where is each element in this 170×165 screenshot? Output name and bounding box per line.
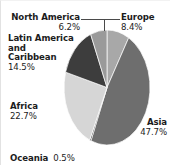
label-latin-america: Latin America and Caribbean 14.5% — [8, 34, 78, 73]
label-africa: Africa 22.7% — [10, 102, 38, 121]
label-north-america: North America 6.2% — [8, 13, 80, 32]
label-europe-percent: 8.4% — [121, 23, 155, 33]
label-oceania: Oceania 0.5% — [10, 147, 75, 165]
pie-chart-figure: North America 6.2% Latin America and Car… — [0, 0, 170, 165]
label-oceania-percent: 0.5% — [53, 153, 74, 163]
label-latin-america-percent: 14.5% — [8, 63, 78, 73]
label-asia: Asia 47.7% — [125, 118, 167, 137]
north-america-leader-line — [81, 19, 105, 20]
label-north-america-percent: 6.2% — [8, 23, 80, 33]
label-africa-percent: 22.7% — [10, 112, 38, 122]
label-oceania-name: Oceania — [10, 153, 48, 163]
europe-leader-line — [104, 19, 120, 20]
label-asia-percent: 47.7% — [125, 128, 167, 138]
europe-leader-line-drop — [104, 19, 105, 30]
label-europe: Europe 8.4% — [121, 13, 155, 32]
